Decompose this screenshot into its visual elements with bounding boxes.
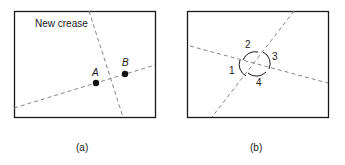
angle-arc-1 [239,60,246,76]
angle-label-4: 4 [256,77,262,88]
angle-label-1: 1 [229,65,235,76]
diagram-canvas: New crease A B (a) 1 2 3 4 (b) [0,0,345,165]
panel-a: New crease A B (a) [14,11,156,153]
angle-arc-2 [243,52,258,60]
new-crease-line [89,11,123,117]
point-b-dot [122,71,128,77]
crease-line-b2 [212,11,294,117]
angle-label-2: 2 [245,39,251,50]
new-crease-label: New crease [35,18,88,29]
angle-arc-4 [248,72,266,76]
caption-a: (a) [76,142,88,153]
angle-label-3: 3 [272,51,278,62]
existing-crease-line-a [14,65,155,108]
point-a-label: A [91,67,99,78]
caption-b: (b) [250,142,262,153]
point-b-label: B [122,57,129,68]
point-a-dot [93,80,99,86]
panel-b: 1 2 3 4 (b) [188,11,329,153]
